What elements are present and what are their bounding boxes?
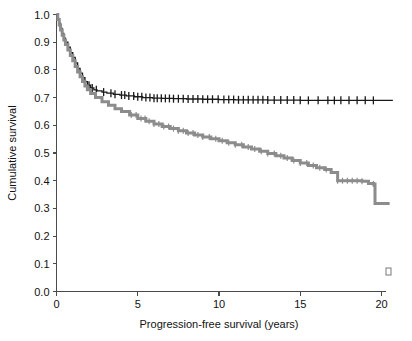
series-upper-curve-black bbox=[57, 15, 393, 105]
x-axis-title: Progression-free survival (years) bbox=[140, 318, 299, 330]
x-tick-label: 20 bbox=[375, 298, 387, 310]
y-tick-label: 0.6 bbox=[34, 119, 49, 131]
figure-container: 0.00.10.20.30.40.50.60.70.80.91.00510152… bbox=[0, 0, 412, 341]
survival-curve-lower-curve-gray bbox=[57, 15, 390, 204]
x-tick-label: 0 bbox=[53, 298, 59, 310]
corner-mark bbox=[386, 268, 391, 275]
y-tick-label: 0.9 bbox=[34, 36, 49, 48]
y-tick-label: 0.0 bbox=[34, 286, 49, 298]
y-axis-title: Cumulative survival bbox=[6, 105, 18, 200]
y-tick-label: 0.2 bbox=[34, 230, 49, 242]
y-tick-label: 0.3 bbox=[34, 202, 49, 214]
y-tick-label: 0.7 bbox=[34, 92, 49, 104]
survival-plot: 0.00.10.20.30.40.50.60.70.80.91.00510152… bbox=[0, 0, 412, 341]
y-tick-label: 1.0 bbox=[34, 9, 49, 21]
survival-curve-upper-curve-black bbox=[57, 15, 393, 101]
y-tick-label: 0.1 bbox=[34, 258, 49, 270]
y-tick-label: 0.4 bbox=[34, 175, 49, 187]
y-tick-label: 0.8 bbox=[34, 64, 49, 76]
axis-spines bbox=[57, 14, 386, 292]
x-tick-label: 15 bbox=[294, 298, 306, 310]
x-tick-label: 10 bbox=[213, 298, 225, 310]
x-tick-label: 5 bbox=[135, 298, 141, 310]
y-tick-label: 0.5 bbox=[34, 147, 49, 159]
series-lower-curve-gray bbox=[57, 15, 390, 204]
